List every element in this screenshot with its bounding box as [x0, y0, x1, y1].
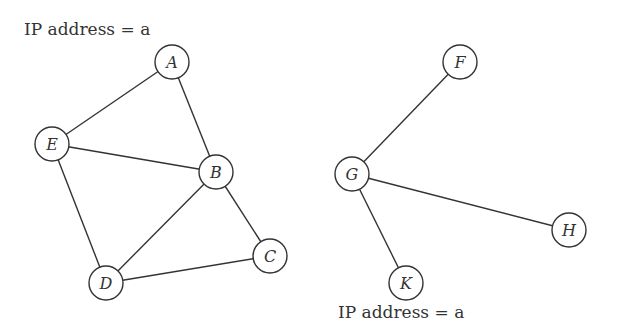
node-h: H	[552, 213, 586, 247]
node-a: A	[155, 45, 189, 79]
node-b: B	[199, 155, 233, 189]
edge-e-b	[52, 144, 216, 172]
edge-b-d	[106, 172, 216, 283]
node-d: D	[89, 266, 123, 300]
edge-g-k	[352, 174, 406, 283]
node-label: G	[346, 165, 359, 184]
node-label: C	[264, 247, 276, 266]
edge-a-e	[52, 62, 172, 144]
node-f: F	[443, 45, 477, 79]
node-k: K	[389, 266, 423, 300]
node-label: H	[561, 221, 577, 240]
node-label: D	[99, 274, 113, 293]
edge-e-d	[52, 144, 106, 283]
network-diagram: AEBCDFGHK IP address = a IP address = a	[0, 0, 618, 327]
node-label: K	[399, 274, 413, 293]
node-c: C	[253, 239, 287, 273]
graph-svg: AEBCDFGHK IP address = a IP address = a	[0, 0, 618, 327]
ip-label-bottom: IP address = a	[338, 302, 464, 322]
node-e: E	[35, 127, 69, 161]
node-g: G	[335, 157, 369, 191]
node-label: A	[164, 53, 178, 72]
edge-g-h	[352, 174, 569, 230]
node-label: B	[209, 163, 222, 182]
edges-group	[52, 62, 569, 283]
node-label: F	[453, 53, 466, 72]
node-label: E	[45, 135, 58, 154]
edge-a-b	[172, 62, 216, 172]
edge-f-g	[352, 62, 460, 174]
edge-d-c	[106, 256, 270, 283]
nodes-group: AEBCDFGHK	[35, 45, 586, 300]
ip-label-top: IP address = a	[24, 19, 150, 39]
